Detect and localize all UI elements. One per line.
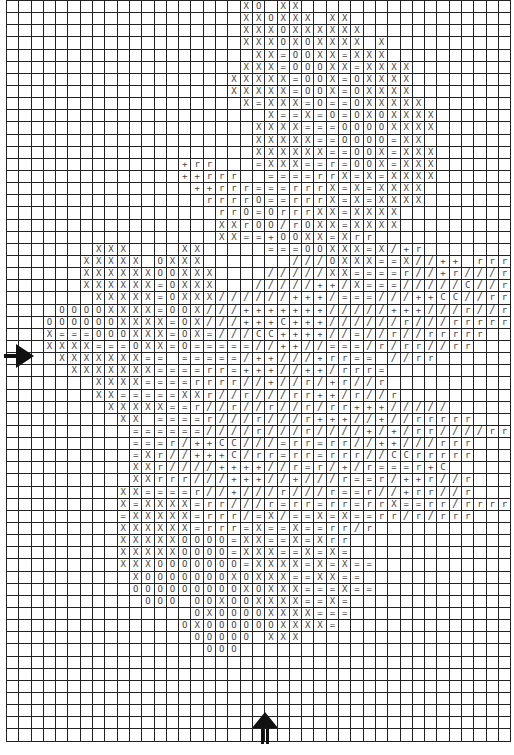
grid-cell bbox=[278, 256, 290, 268]
grid-cell: / bbox=[290, 414, 302, 426]
grid-cell bbox=[179, 644, 191, 656]
grid-cell bbox=[327, 657, 339, 669]
grid-cell: = bbox=[167, 341, 179, 353]
grid-cell: = bbox=[364, 268, 376, 280]
grid-cell bbox=[499, 159, 511, 171]
grid-cell bbox=[437, 535, 449, 547]
grid-cell bbox=[216, 1, 228, 13]
grid-cell: O bbox=[93, 329, 105, 341]
grid-cell: X bbox=[204, 280, 216, 292]
grid-cell: X bbox=[278, 98, 290, 110]
grid-cell bbox=[413, 657, 425, 669]
grid-cell: = bbox=[204, 329, 216, 341]
grid-cell bbox=[474, 341, 486, 353]
grid-cell bbox=[167, 74, 179, 86]
grid-cell bbox=[216, 25, 228, 37]
grid-cell: = bbox=[388, 280, 400, 292]
grid-cell bbox=[241, 50, 253, 62]
grid-cell bbox=[339, 657, 351, 669]
grid-cell bbox=[364, 644, 376, 656]
grid-cell bbox=[474, 462, 486, 474]
grid-cell: / bbox=[401, 292, 413, 304]
grid-cell bbox=[44, 693, 56, 705]
grid-cell bbox=[167, 232, 179, 244]
grid-cell bbox=[44, 207, 56, 219]
grid-cell bbox=[216, 693, 228, 705]
grid-cell bbox=[241, 657, 253, 669]
grid-cell bbox=[32, 195, 44, 207]
grid-cell: = bbox=[142, 426, 154, 438]
grid-cell bbox=[56, 414, 68, 426]
grid-cell: O bbox=[228, 608, 240, 620]
grid-cell: = bbox=[155, 438, 167, 450]
grid-cell bbox=[437, 50, 449, 62]
grid-cell: X bbox=[155, 511, 167, 523]
grid-cell: = bbox=[327, 341, 339, 353]
grid-cell: X bbox=[290, 584, 302, 596]
grid-cell bbox=[19, 414, 31, 426]
grid-cell bbox=[68, 220, 80, 232]
grid-cell bbox=[487, 86, 499, 98]
grid-cell bbox=[130, 159, 142, 171]
grid-cell: = bbox=[314, 135, 326, 147]
grid-cell: / bbox=[462, 268, 474, 280]
grid-cell: = bbox=[327, 135, 339, 147]
grid-cell bbox=[56, 135, 68, 147]
grid-cell bbox=[142, 620, 154, 632]
grid-cell: = bbox=[155, 365, 167, 377]
grid-cell bbox=[56, 280, 68, 292]
grid-cell bbox=[56, 207, 68, 219]
grid-cell bbox=[450, 705, 462, 717]
grid-cell bbox=[81, 717, 93, 729]
grid-cell bbox=[216, 657, 228, 669]
grid-cell bbox=[105, 644, 117, 656]
grid-cell bbox=[474, 377, 486, 389]
grid-cell bbox=[216, 159, 228, 171]
grid-cell bbox=[413, 535, 425, 547]
grid-cell bbox=[105, 98, 117, 110]
grid-cell: / bbox=[265, 438, 277, 450]
grid-cell: r bbox=[388, 511, 400, 523]
grid-cell: r bbox=[253, 450, 265, 462]
grid-cell bbox=[32, 220, 44, 232]
grid-cell: O bbox=[228, 596, 240, 608]
grid-cell bbox=[155, 693, 167, 705]
grid-cell: X bbox=[302, 147, 314, 159]
grid-cell: + bbox=[278, 341, 290, 353]
grid-cell: / bbox=[351, 305, 363, 317]
grid-cell: / bbox=[364, 305, 376, 317]
grid-cell bbox=[425, 220, 437, 232]
grid-cell: / bbox=[253, 280, 265, 292]
grid-cell bbox=[167, 681, 179, 693]
grid-cell: = bbox=[142, 438, 154, 450]
grid-cell bbox=[32, 705, 44, 717]
grid-cell: / bbox=[376, 329, 388, 341]
grid-cell bbox=[462, 25, 474, 37]
grid-cell bbox=[19, 608, 31, 620]
grid-cell bbox=[105, 195, 117, 207]
grid-cell bbox=[68, 669, 80, 681]
grid-cell bbox=[487, 717, 499, 729]
grid-cell bbox=[7, 657, 19, 669]
grid-cell bbox=[364, 25, 376, 37]
grid-cell bbox=[56, 220, 68, 232]
grid-cell bbox=[32, 644, 44, 656]
grid-cell: X bbox=[118, 414, 130, 426]
grid-cell: + bbox=[437, 256, 449, 268]
grid-cell bbox=[32, 474, 44, 486]
grid-cell: r bbox=[450, 414, 462, 426]
grid-cell bbox=[487, 329, 499, 341]
grid-cell bbox=[7, 74, 19, 86]
grid-cell bbox=[93, 50, 105, 62]
grid-cell: / bbox=[179, 438, 191, 450]
grid-cell: C bbox=[228, 438, 240, 450]
grid-cell bbox=[68, 74, 80, 86]
grid-cell bbox=[413, 220, 425, 232]
grid-cell: / bbox=[351, 414, 363, 426]
grid-cell bbox=[7, 596, 19, 608]
grid-cell bbox=[44, 305, 56, 317]
grid-cell bbox=[314, 729, 326, 741]
grid-cell: X bbox=[401, 122, 413, 134]
grid-cell: C bbox=[462, 280, 474, 292]
grid-cell bbox=[118, 438, 130, 450]
